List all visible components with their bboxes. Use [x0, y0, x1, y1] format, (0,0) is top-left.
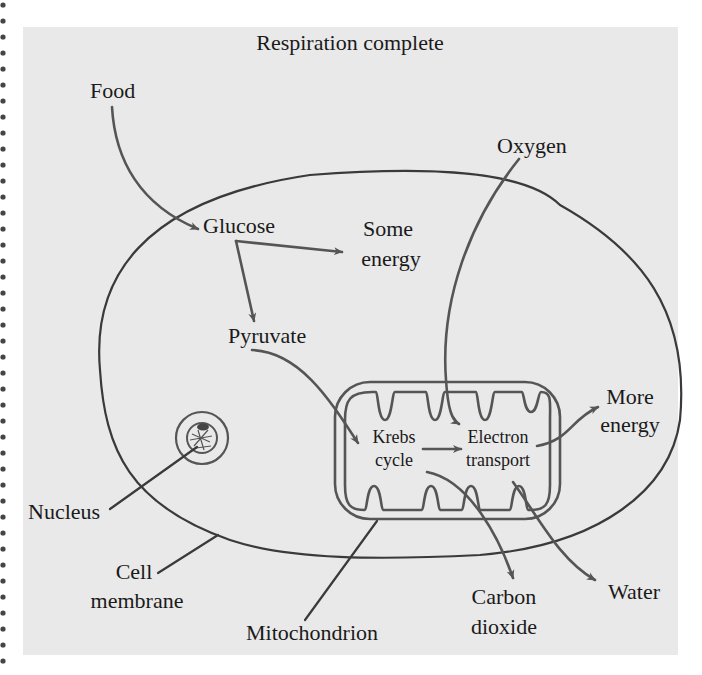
label-carbon-dioxide-line1: Carbon	[472, 584, 537, 609]
label-more-energy-line2: energy	[600, 412, 659, 437]
label-pyruvate: Pyruvate	[228, 323, 306, 348]
arrow-glucose-energy	[236, 241, 342, 252]
label-nucleus: Nucleus	[28, 499, 100, 524]
label-some-energy-line2: energy	[361, 246, 420, 271]
arrow-krebs-co2	[427, 472, 513, 578]
leader-cell-membrane	[158, 535, 218, 573]
arrow-food-glucose	[112, 107, 198, 229]
label-more-energy-line1: More	[606, 384, 654, 409]
leader-mitochondrion	[305, 521, 377, 620]
arrow-glucose-pyruvate	[236, 241, 254, 321]
label-krebs-line2: cycle	[375, 450, 413, 470]
label-water: Water	[608, 579, 661, 604]
label-carbon-dioxide-line2: dioxide	[471, 614, 537, 639]
label-oxygen: Oxygen	[497, 133, 567, 158]
arrow-oxygen-electron	[445, 159, 519, 424]
respiration-diagram: Respiration complete Food Oxygen Glucose…	[0, 0, 702, 675]
label-glucose: Glucose	[203, 213, 275, 238]
label-cell-membrane-line2: membrane	[91, 588, 184, 613]
label-food: Food	[90, 78, 135, 103]
label-some-energy-line1: Some	[363, 216, 413, 241]
label-cell-membrane-line1: Cell	[116, 559, 153, 584]
label-electron-line1: Electron	[468, 427, 529, 447]
diagram-title: Respiration complete	[256, 30, 444, 55]
arrow-electron-energy	[537, 407, 598, 446]
label-krebs-line1: Krebs	[373, 427, 416, 447]
label-electron-line2: transport	[466, 450, 530, 470]
label-mitochondrion: Mitochondrion	[246, 620, 378, 645]
